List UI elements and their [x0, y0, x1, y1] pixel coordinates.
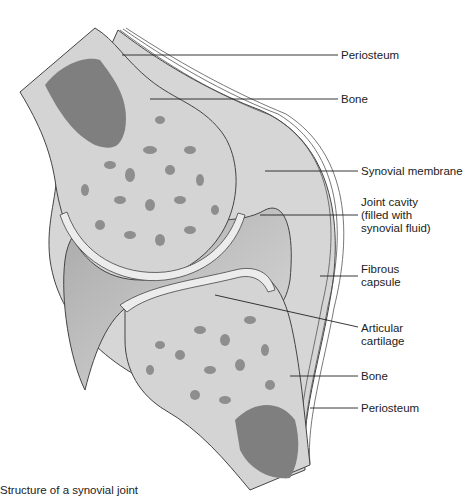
label-joint-cavity: Joint cavity (filled with synovial fluid…: [361, 196, 431, 235]
label-synovial-membrane: Synovial membrane: [361, 165, 463, 178]
label-articular-cartilage: Articular cartilage: [361, 322, 404, 348]
label-fibrous-capsule: Fibrous capsule: [361, 263, 401, 289]
label-bone-top: Bone: [341, 93, 368, 106]
figure-caption: Structure of a synovial joint: [0, 484, 138, 496]
label-periosteum-top: Periosteum: [341, 49, 399, 62]
label-bone-bottom: Bone: [361, 370, 388, 383]
label-periosteum-bottom: Periosteum: [361, 402, 419, 415]
